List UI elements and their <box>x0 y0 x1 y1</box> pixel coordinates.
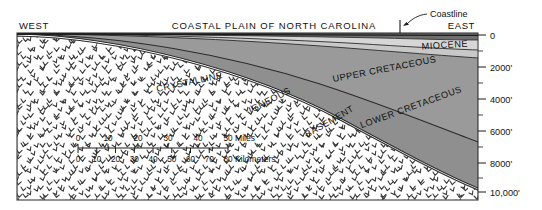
depth-tick: 8000' <box>478 159 512 169</box>
depth-tick-label: 8000' <box>490 159 512 169</box>
scale-tick-label: 70 <box>205 155 215 164</box>
scale-tick-label: 20 <box>111 155 121 164</box>
depth-minor-ticks <box>478 51 483 178</box>
depth-tick: 4000' <box>478 95 512 105</box>
scale-tick-label: 60 <box>186 155 196 164</box>
depth-axis: 0 2000' 4000' 6000' 8000' 10,000' <box>478 31 520 198</box>
scale-tick-label: 30 <box>163 134 173 143</box>
depth-tick-label: 6000' <box>490 127 512 137</box>
depth-tick: 6000' <box>478 127 512 137</box>
scale-tick-label: 30 <box>130 155 140 164</box>
depth-tick-label: 10,000' <box>490 188 520 198</box>
depth-tick-label: 0 <box>490 31 495 41</box>
scale-tick-label: 50 <box>223 134 233 143</box>
scale-tick-label: 0 <box>76 134 81 143</box>
depth-tick: 10,000' <box>478 188 520 198</box>
scale-unit-miles: Miles <box>235 133 255 143</box>
scale-tick-label: 10 <box>92 155 102 164</box>
scale-tick-label: 50 <box>167 155 177 164</box>
coastline-leader-line <box>407 14 427 24</box>
scale-tick-label: 20 <box>133 134 143 143</box>
direction-label-west: WEST <box>19 20 49 31</box>
scale-tick-label: 40 <box>193 134 203 143</box>
scale-tick-label: 10 <box>103 134 113 143</box>
direction-label-east: EAST <box>448 20 475 31</box>
depth-tick: 2000' <box>478 63 512 73</box>
depth-tick-label: 2000' <box>490 63 512 73</box>
scale-tick-label: 80 <box>223 155 233 164</box>
figure-title: COASTAL PLAIN OF NORTH CAROLINA <box>172 20 377 31</box>
depth-tick-label: 4000' <box>490 95 512 105</box>
depth-tick: 0 <box>478 31 495 41</box>
cross-section-drawing: WEST COASTAL PLAIN OF NORTH CAROLINA EAS… <box>0 0 542 210</box>
scale-tick-label: 0 <box>76 155 81 164</box>
scale-unit-kilometers: Kilometers <box>235 154 276 164</box>
coastline-callout-label: Coastline <box>430 9 468 19</box>
scale-tick-label: 40 <box>148 155 158 164</box>
geologic-cross-section-figure: WEST COASTAL PLAIN OF NORTH CAROLINA EAS… <box>0 0 542 210</box>
